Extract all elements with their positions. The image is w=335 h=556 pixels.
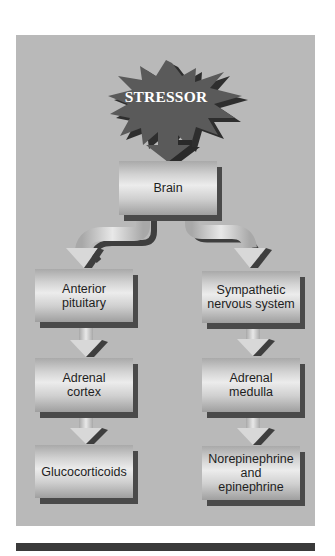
- arrow-sympathetic-to-adrenal-medulla: [237, 329, 275, 356]
- node-brain-label: Brain: [153, 181, 182, 195]
- node-label-line: and: [208, 466, 293, 480]
- node-label-line: Adrenal: [229, 371, 273, 385]
- node-label-line: nervous system: [207, 297, 295, 311]
- arrow-brain-to-sympathetic: [192, 214, 272, 268]
- stressor-label: STRESSOR: [116, 88, 216, 106]
- node-label-line: Norepinephrine: [208, 452, 293, 466]
- arrow-brain-to-anterior-pituitary: [66, 214, 154, 268]
- node-glucocorticoids: Glucocorticoids: [35, 445, 133, 498]
- node-label-line: pituitary: [62, 296, 106, 310]
- node-norepinephrine-epinephrine: Norepinephrine and epinephrine: [202, 446, 300, 500]
- node-label-line: epinephrine: [208, 480, 293, 494]
- node-anterior-pituitary: Anterior pituitary: [35, 269, 133, 322]
- node-label-line: cortex: [62, 385, 105, 399]
- arrow-adrenal-cortex-to-glucocorticoids: [70, 418, 108, 444]
- node-adrenal-medulla: Adrenal medulla: [202, 358, 300, 412]
- node-label-line: Adrenal: [62, 371, 105, 385]
- node-brain: Brain: [119, 161, 217, 215]
- node-sympathetic-nervous-system: Sympathetic nervous system: [202, 271, 300, 323]
- node-label-line: medulla: [229, 385, 273, 399]
- bottom-divider-bar: [16, 543, 315, 551]
- node-adrenal-cortex: Adrenal cortex: [35, 358, 133, 412]
- node-label-line: Anterior: [62, 282, 106, 296]
- node-glucocorticoids-label: Glucocorticoids: [41, 465, 126, 479]
- arrow-anterior-pituitary-to-adrenal-cortex: [70, 328, 108, 357]
- node-label-line: Sympathetic: [207, 283, 295, 297]
- arrow-adrenal-medulla-to-norepinephrine: [237, 418, 275, 445]
